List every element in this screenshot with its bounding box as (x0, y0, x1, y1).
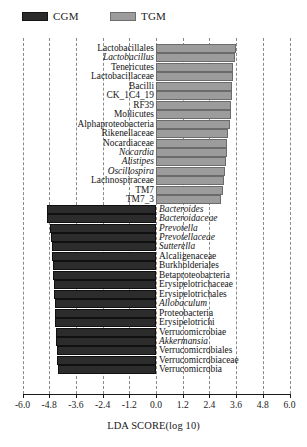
bar-cgm (55, 309, 156, 318)
bar-tgm (156, 139, 227, 148)
bar-cgm (57, 356, 156, 365)
bar-series: LactobacillalesLactobacillusTenericutesL… (0, 44, 307, 394)
bar-tgm (156, 63, 233, 72)
bar-row: Bacteroides (0, 205, 307, 214)
axis-tick (103, 394, 104, 398)
bar-cgm (53, 271, 156, 280)
bar-cgm (55, 299, 156, 308)
bar-cgm (54, 290, 156, 299)
plot-area: LactobacillalesLactobacillusTenericutesL… (0, 38, 307, 394)
x-axis-title: LDA SCORE(log 10) (0, 420, 307, 431)
bar-label: TM7_3 (126, 194, 154, 204)
bar-cgm (57, 346, 156, 355)
legend-entry-tgm: TGM (110, 11, 166, 22)
bar-tgm (156, 167, 225, 176)
bar-row: Proteobacteria (0, 309, 307, 318)
bar-tgm (156, 53, 235, 62)
bar-cgm (53, 261, 156, 270)
bar-row: TM7_3 (0, 195, 307, 204)
bar-cgm (47, 214, 156, 223)
axis-tick (209, 394, 210, 398)
axis-tick (183, 394, 184, 398)
bar-tgm (156, 44, 236, 53)
bar-cgm (58, 365, 156, 374)
bar-tgm (156, 72, 233, 81)
bar-cgm (54, 280, 156, 289)
axis-tick (23, 394, 24, 398)
bar-tgm (156, 186, 223, 195)
bar-cgm (55, 318, 156, 327)
bar-row: Erysipelotrichales (0, 290, 307, 299)
axis-tick-label: 6.0 (274, 400, 306, 410)
chart-legend: CGMTGM (0, 11, 307, 29)
bar-cgm (52, 252, 156, 261)
bar-row: Erysipelotrichi (0, 318, 307, 327)
bar-row: Bacteroidaceae (0, 214, 307, 223)
bar-row: Erysipelotrichaceae (0, 280, 307, 289)
bar-row: Prevotellaceae (0, 233, 307, 242)
bar-tgm (156, 148, 227, 157)
bar-cgm (51, 233, 156, 242)
axis-tick (236, 394, 237, 398)
legend-label-cgm: CGM (53, 11, 79, 22)
legend-entry-cgm: CGM (22, 11, 79, 22)
bar-tgm (156, 176, 224, 185)
x-axis: LDA SCORE(log 10) -6.0-4.8-3.6-2.4-1.20.… (0, 394, 307, 447)
bar-tgm (156, 120, 230, 129)
bar-cgm (56, 328, 156, 337)
axis-tick (263, 394, 264, 398)
axis-tick (129, 394, 130, 398)
bar-row: Verrucomicrobiae (0, 328, 307, 337)
bar-row: Akkermansia (0, 337, 307, 346)
bar-tgm (156, 91, 232, 100)
bar-cgm (50, 224, 156, 233)
bar-cgm (47, 205, 156, 214)
axis-tick (76, 394, 77, 398)
bar-row: Sutterella (0, 242, 307, 251)
legend-swatch-tgm (110, 12, 136, 21)
bar-row: Allobaculum (0, 299, 307, 308)
bar-tgm (156, 82, 232, 91)
bar-row: Verrucomicrobiales (0, 346, 307, 355)
bar-row: Betaproteobacteria (0, 271, 307, 280)
bar-row: Prevotella (0, 224, 307, 233)
lefse-lda-chart: CGMTGM LactobacillalesLactobacillusTener… (0, 0, 307, 447)
bar-cgm (56, 337, 156, 346)
bar-row: Alcaligenaceae (0, 252, 307, 261)
bar-cgm (52, 242, 156, 251)
axis-tick (156, 394, 157, 398)
legend-swatch-cgm (22, 12, 48, 21)
bar-tgm (156, 110, 231, 119)
legend-label-tgm: TGM (141, 11, 166, 22)
bar-row: Verrucomicrobia (0, 365, 307, 374)
axis-tick (49, 394, 50, 398)
axis-tick (290, 394, 291, 398)
bar-row: Burkholderiales (0, 261, 307, 270)
bar-tgm (156, 101, 231, 110)
bar-label: Verrucomicrobia (159, 364, 222, 374)
bar-tgm (156, 157, 226, 166)
bar-row: Verrucomicrobiaceae (0, 356, 307, 365)
bar-tgm (156, 129, 228, 138)
